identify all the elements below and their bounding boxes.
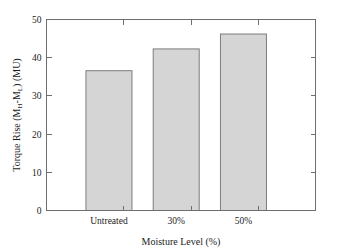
bar [153,49,199,211]
x-axis-tick-labels: Untreated30%50% [90,216,252,226]
bar [220,34,266,210]
y-tick-label: 20 [32,130,42,140]
x-axis-title: Moisture Level (%) [142,236,221,248]
y-tick-label: 50 [32,15,42,25]
y-axis-title: Torque Rise (MH-ML) (MU) [11,58,24,171]
chart-canvas: 01020304050 Untreated30%50% Moisture Lev… [0,0,339,251]
bar [86,71,132,211]
bar-chart-figure: 01020304050 Untreated30%50% Moisture Lev… [0,0,339,251]
y-tick-label: 30 [32,91,42,101]
x-tick-label: Untreated [90,216,128,226]
x-tick-label: 50% [235,216,253,226]
y-tick-label: 10 [32,168,42,178]
y-tick-label: 40 [32,53,42,63]
y-axis-tick-labels: 01020304050 [32,15,42,216]
y-tick-label: 0 [37,206,42,216]
x-tick-label: 30% [167,216,185,226]
